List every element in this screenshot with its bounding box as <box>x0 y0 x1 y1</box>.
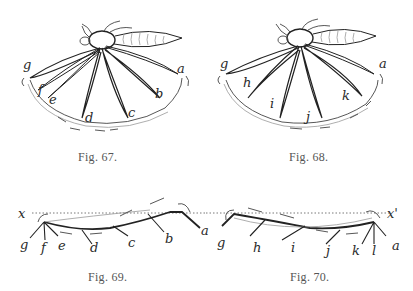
label-a: a <box>392 238 400 253</box>
caption-fig-67: Fig. 67. <box>78 150 117 164</box>
label-k: k <box>352 243 360 258</box>
figure-67: g f e d c b a Fig. 67. <box>22 21 189 262</box>
caption-fig-70: Fig. 70. <box>290 270 329 284</box>
label-b: b <box>155 86 163 101</box>
label-f: f <box>37 82 45 97</box>
label-j: j <box>323 243 330 258</box>
label-i: i <box>291 240 295 255</box>
label-g: g <box>220 56 228 71</box>
insect-body-icon <box>276 19 376 47</box>
label-g: g <box>217 235 225 250</box>
label-j: j <box>303 109 310 124</box>
label-b: b <box>165 231 173 246</box>
wing-stroke-path <box>222 214 374 228</box>
label-c: c <box>128 105 136 120</box>
label-g: g <box>23 57 31 72</box>
label-e: e <box>58 238 66 253</box>
insect-body-icon <box>80 21 182 49</box>
label-d: d <box>85 110 93 125</box>
label-k: k <box>342 88 350 103</box>
label-h: h <box>253 240 261 255</box>
label-a: a <box>201 223 209 238</box>
figure-68: g h i j k a Fig. 68. <box>218 19 387 164</box>
label-h: h <box>243 75 251 90</box>
figure-70: x' g h i j k l a Fig. 70. <box>206 206 400 284</box>
caption-fig-69: Fig. 69. <box>88 270 127 284</box>
label-a: a <box>379 56 387 71</box>
label-a: a <box>177 61 185 76</box>
label-x: x <box>18 206 26 221</box>
caption-fig-68: Fig. 68. <box>289 150 328 164</box>
figure-69: x g f e d c b a Fig. 69. <box>18 198 209 284</box>
label-x-prime: x' <box>387 206 398 221</box>
label-c: c <box>128 235 136 250</box>
label-l: l <box>372 243 376 258</box>
label-f: f <box>40 240 48 255</box>
label-i: i <box>270 96 274 111</box>
label-e: e <box>49 92 57 107</box>
label-g: g <box>20 237 28 252</box>
diagram-canvas: g f e d c b a Fig. 67. g h <box>0 0 413 291</box>
label-d: d <box>90 240 98 255</box>
